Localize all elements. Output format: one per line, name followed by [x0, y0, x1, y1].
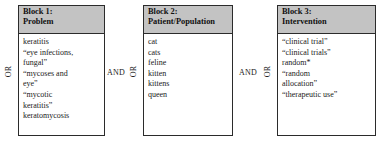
block-3-term: allocation”	[282, 79, 371, 90]
block-3-term: “clinical trials”	[282, 48, 371, 59]
block-1-term: keratitis	[23, 37, 100, 48]
block-3-header-line-2: Intervention	[282, 17, 371, 27]
and-operator-2: AND	[238, 68, 258, 77]
block-2-header-line-1: Block 2:	[148, 7, 228, 17]
block-2-term-list: cat cats feline kitten kittens queen	[144, 34, 232, 101]
block-1-term: keratomycosis	[23, 111, 100, 122]
block-1-header-line-2: Problem	[23, 17, 100, 27]
block-1-header: Block 1: Problem	[19, 6, 104, 34]
or-operator-block-1: OR	[4, 63, 13, 81]
block-2-term: feline	[148, 58, 228, 69]
block-1-term: fungal”	[23, 58, 100, 69]
block-3-header: Block 3: Intervention	[278, 6, 375, 34]
block-3-term-list: “clinical trial” “clinical trials” rando…	[278, 34, 375, 101]
block-3-term: “clinical trial”	[282, 37, 371, 48]
block-1-term: “eye infections,	[23, 48, 100, 59]
block-1-header-line-1: Block 1:	[23, 7, 100, 17]
block-2-term: cat	[148, 37, 228, 48]
block-1-problem: Block 1: Problem keratitis “eye infectio…	[18, 5, 105, 136]
block-1-term: “mycotic	[23, 90, 100, 101]
search-strategy-diagram: OR Block 1: Problem keratitis “eye infec…	[0, 0, 387, 145]
block-2-term: kitten	[148, 69, 228, 80]
or-operator-block-2: OR	[129, 63, 138, 81]
block-3-intervention: Block 3: Intervention “clinical trial” “…	[277, 5, 376, 136]
block-1-term: keratitis”	[23, 101, 100, 112]
block-2-header-line-2: Patient/Population	[148, 17, 228, 27]
block-1-term: “mycoses and	[23, 69, 100, 80]
block-1-term: eye”	[23, 79, 100, 90]
block-3-term: random*	[282, 58, 371, 69]
block-2-term: kittens	[148, 79, 228, 90]
or-operator-block-3: OR	[263, 63, 272, 81]
block-3-header-line-1: Block 3:	[282, 7, 371, 17]
block-3-term: “random	[282, 69, 371, 80]
block-2-patient-population: Block 2: Patient/Population cat cats fel…	[143, 5, 233, 136]
block-3-term: “therapeutic use”	[282, 90, 371, 101]
block-1-term-list: keratitis “eye infections, fungal” “myco…	[19, 34, 104, 122]
and-operator-1: AND	[106, 68, 126, 77]
block-2-term: cats	[148, 48, 228, 59]
block-2-header: Block 2: Patient/Population	[144, 6, 232, 34]
block-2-term: queen	[148, 90, 228, 101]
